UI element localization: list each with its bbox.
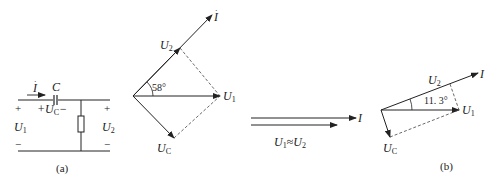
caption-b: (b) bbox=[440, 160, 453, 173]
dashed-line-uc-u1 bbox=[174, 96, 220, 138]
output-voltage-label: U2 bbox=[102, 120, 115, 135]
label-UC: UC bbox=[157, 141, 171, 156]
label-I-b: I bbox=[479, 67, 485, 81]
label-U1-b: U1 bbox=[462, 103, 475, 118]
resistor bbox=[78, 116, 84, 132]
caption-a: (a) bbox=[56, 162, 69, 175]
label-U2-b: U2 bbox=[428, 73, 441, 88]
angle-label-58: 58° bbox=[152, 82, 166, 93]
capacitor-label: C bbox=[52, 80, 61, 94]
phasor-diagram-b: 11. 3° I U2 U1 UC (b) bbox=[381, 67, 485, 173]
figure-canvas: I · C +UC− + U1 − + U2 − (a) 58° I · U2 bbox=[0, 0, 498, 186]
middle-phasor: I U1≈U2 bbox=[251, 111, 363, 150]
input-voltage-label: U1 bbox=[14, 120, 27, 135]
capacitor-voltage-label: +UC− bbox=[37, 102, 67, 117]
input-minus: − bbox=[15, 138, 21, 150]
vector-UC bbox=[133, 96, 174, 138]
label-UC-b: UC bbox=[383, 141, 397, 156]
dashed-line-u2-u1-b bbox=[450, 84, 459, 110]
label-U1: U1 bbox=[223, 89, 236, 104]
relation-label: U1≈U2 bbox=[274, 135, 306, 150]
label-U2: U2 bbox=[160, 38, 173, 53]
phasor-dot: · bbox=[215, 6, 218, 15]
circuit-diagram: I · C +UC− + U1 − + U2 − (a) bbox=[14, 77, 115, 175]
angle-label-11: 11. 3° bbox=[424, 95, 448, 106]
output-plus: + bbox=[104, 102, 110, 114]
angle-arc-11 bbox=[410, 99, 412, 110]
input-plus: + bbox=[15, 102, 21, 114]
dashed-line-u2-u1 bbox=[180, 48, 220, 96]
phasor-diagram-a: 58° I · U2 U1 UC bbox=[133, 6, 236, 156]
phasor-dot: · bbox=[34, 77, 37, 86]
dashed-line-uc-u1-b bbox=[390, 110, 459, 137]
output-minus: − bbox=[104, 138, 110, 150]
vector-UC-b bbox=[381, 110, 390, 137]
label-I-middle: I bbox=[357, 111, 363, 125]
